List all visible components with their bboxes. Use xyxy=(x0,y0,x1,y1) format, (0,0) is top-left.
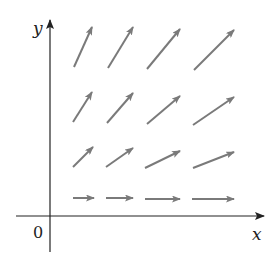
vector-arrow-r2-c4 xyxy=(193,152,234,168)
vector-arrow-r2-c2 xyxy=(106,148,133,167)
vector-arrow-r2-c1 xyxy=(73,147,93,167)
vector-arrow-r4-c4 xyxy=(194,30,234,70)
vector-arrow-r4-c3 xyxy=(147,29,180,69)
vector-arrow-r2-c3 xyxy=(145,151,180,168)
vector-arrows xyxy=(73,27,234,199)
vector-arrow-r3-c1 xyxy=(73,92,92,122)
vector-arrow-r3-c3 xyxy=(147,96,180,124)
origin-label: 0 xyxy=(33,223,43,242)
vector-arrow-r3-c2 xyxy=(107,93,133,123)
x-axis-label: x xyxy=(252,224,262,244)
vector-field-diagram: y x 0 xyxy=(0,0,272,264)
vector-arrow-r3-c4 xyxy=(193,97,234,125)
vector-arrow-r4-c2 xyxy=(108,27,133,68)
y-axis-label: y xyxy=(32,18,43,38)
vector-arrow-r4-c1 xyxy=(74,27,92,67)
